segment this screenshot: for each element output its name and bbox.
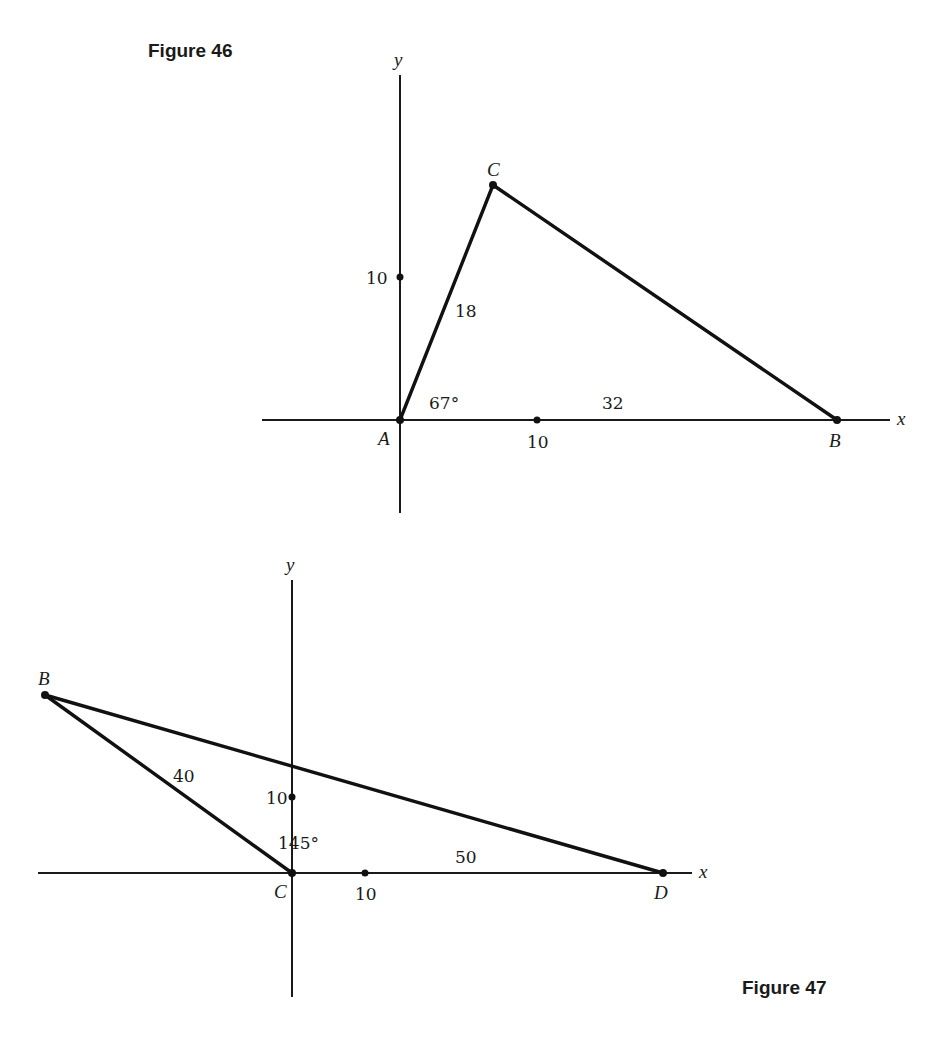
- x-tick-label: 10: [527, 432, 549, 452]
- vertex-C-label: C: [274, 881, 287, 902]
- figure-46-caption: Figure 46: [148, 40, 232, 61]
- side-BC: [45, 695, 292, 873]
- x-axis-label: x: [896, 408, 906, 429]
- y-axis-label: y: [392, 49, 403, 70]
- vertex-B-label: B: [829, 430, 841, 451]
- side-AC: [400, 185, 493, 420]
- vertex-B: [41, 691, 49, 699]
- x-axis-label: x: [698, 861, 708, 882]
- figures-canvas: Figure 46 y x 10 10 A C B 18 32 67° y x: [0, 0, 947, 1045]
- x-tick-label: 10: [355, 884, 377, 904]
- vertex-C: [288, 869, 296, 877]
- angle-C-label: 145°: [278, 833, 319, 853]
- vertex-C-label: C: [487, 159, 500, 180]
- side-AC-length: 18: [455, 301, 477, 321]
- vertex-B: [833, 416, 841, 424]
- y-axis-label: y: [284, 554, 295, 575]
- figure-47-caption: Figure 47: [742, 977, 826, 998]
- side-CD-length: 50: [455, 847, 477, 867]
- y-tick-label: 10: [366, 268, 388, 288]
- figure-46: Figure 46 y x 10 10 A C B 18 32 67°: [148, 40, 906, 513]
- vertex-C: [489, 181, 497, 189]
- y-tick-point: [289, 794, 296, 801]
- vertex-B-label: B: [38, 668, 50, 689]
- y-tick-label: 10: [266, 788, 288, 808]
- figure-47: y x 10 10 B C D 40 50 145° Figure 47: [38, 554, 826, 998]
- y-tick-point: [397, 274, 404, 281]
- vertex-D: [659, 869, 667, 877]
- x-tick-point: [534, 417, 541, 424]
- vertex-A: [396, 416, 404, 424]
- side-CB: [493, 185, 837, 420]
- x-tick-point: [362, 870, 369, 877]
- side-AB-length: 32: [602, 393, 624, 413]
- side-BD: [45, 695, 663, 873]
- vertex-D-label: D: [653, 882, 668, 903]
- angle-A-label: 67°: [429, 393, 459, 413]
- vertex-A-label: A: [376, 428, 390, 449]
- side-CB-length: 40: [173, 766, 195, 786]
